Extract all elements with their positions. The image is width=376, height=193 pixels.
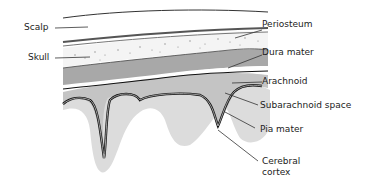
scalp-outline	[63, 10, 268, 18]
label-scalp: Scalp	[24, 22, 48, 32]
label-skull: Skull	[28, 52, 49, 62]
label-cerebral-cortex-1: Cerebral	[262, 156, 300, 166]
label-subarachnoid-space: Subarachnoid space	[260, 100, 351, 110]
label-pia-mater: Pia mater	[260, 124, 303, 134]
label-cerebral-cortex-2: cortex	[262, 167, 290, 177]
label-dura-mater: Dura mater	[262, 47, 314, 57]
label-periosteum: Periosteum	[262, 19, 313, 29]
meninges-diagram	[0, 0, 376, 193]
label-arachnoid: Arachnoid	[262, 76, 307, 86]
